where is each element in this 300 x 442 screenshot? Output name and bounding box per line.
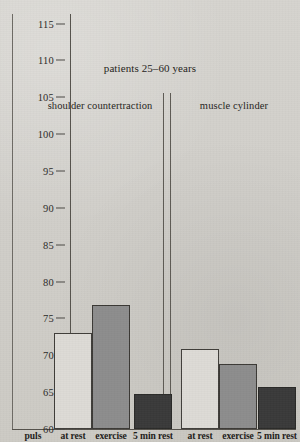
group-label-muscle-cylinder: muscle cylinder: [172, 100, 296, 111]
y-axis-tick-mark: [56, 23, 65, 24]
y-axis-tick-mark: [56, 170, 65, 171]
y-axis-tick-label: 90: [8, 202, 54, 213]
y-axis-tick-mark: [56, 60, 65, 61]
y-axis-tick-label: 115: [8, 18, 54, 29]
chart-title: patients 25–60 years: [0, 62, 300, 74]
y-axis-tick-label: 75: [8, 313, 54, 324]
y-axis-tick-label: 100: [8, 129, 54, 140]
bar: [181, 349, 219, 429]
bar: [134, 394, 172, 429]
chart-figure: 6065707580859095100105110115 patients 25…: [0, 0, 300, 442]
group-divider-right: [170, 93, 171, 429]
bar: [258, 387, 296, 429]
y-axis-tick-mark: [56, 134, 65, 135]
y-axis-tick-label: 65: [8, 387, 54, 398]
bar: [54, 333, 92, 429]
y-axis-tick-label: 70: [8, 350, 54, 361]
group-label-shoulder-countertraction: shoulder countertraction: [38, 100, 162, 111]
x-axis-tick-label: 5 min rest: [245, 430, 300, 441]
y-axis-tick-mark: [56, 318, 65, 319]
y-axis-tick-label: 80: [8, 276, 54, 287]
group-divider-left: [163, 93, 164, 429]
y-axis-tick-label: 95: [8, 165, 54, 176]
y-axis-tick-label: 85: [8, 239, 54, 250]
plot-area: 6065707580859095100105110115 patients 25…: [0, 0, 300, 442]
bar: [219, 364, 257, 429]
y-axis-tick-mark: [56, 244, 65, 245]
outer-frame-rule: [12, 14, 13, 429]
y-axis-tick-mark: [56, 97, 65, 98]
bar: [92, 305, 130, 429]
y-axis-tick-mark: [56, 207, 65, 208]
y-axis-tick-mark: [56, 281, 65, 282]
